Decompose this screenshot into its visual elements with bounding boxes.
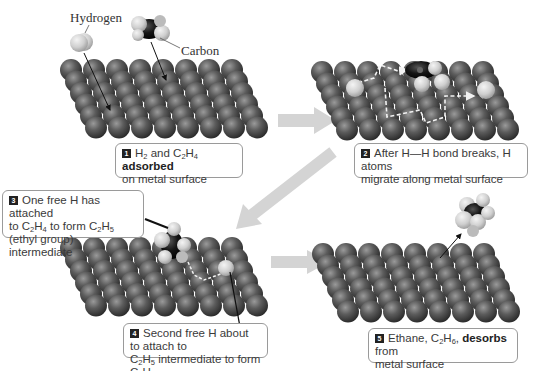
flow-arrow-2-to-3 — [236, 152, 333, 229]
step-number-badge: 3 — [9, 196, 18, 205]
step-5-caption: 5Ethane, C2H6, desorbs frommetal surface — [368, 328, 518, 363]
step-3-caption: 3One free H has attachedto C2H4 to form … — [2, 190, 144, 238]
step-3-leader — [145, 219, 168, 228]
hydrogen-atom-icon — [346, 79, 364, 97]
ethylene-molecule-icon — [131, 15, 170, 41]
carbon-label-leader — [160, 38, 180, 48]
metal-surface-step-1 — [60, 59, 268, 139]
ethane-molecule-icon — [455, 193, 495, 237]
second-hydrogen-atom-icon — [218, 260, 234, 276]
step-1-caption: 1H2 and C2H4 adsorbedon metal surface — [115, 143, 243, 178]
hydrogen-label-leader — [85, 25, 89, 33]
carbon-label: Carbon — [181, 43, 219, 59]
ethyl-intermediate-icon — [154, 222, 191, 264]
step-number-badge: 4 — [130, 329, 139, 338]
hydrogen-molecule-icon — [70, 33, 93, 52]
step-2-caption: 2After H—H bond breaks, H atomsmigrate a… — [354, 143, 528, 178]
hydrogen-atom-icon — [477, 81, 495, 99]
step-number-badge: 5 — [375, 334, 384, 343]
step-number-badge: 1 — [122, 149, 131, 158]
metal-surface-step-5 — [312, 243, 520, 323]
step-number-badge: 2 — [361, 149, 370, 158]
hydrogen-label: Hydrogen — [70, 10, 122, 26]
step-4-caption: 4Second free H about to attach toC2H5 in… — [123, 323, 268, 358]
